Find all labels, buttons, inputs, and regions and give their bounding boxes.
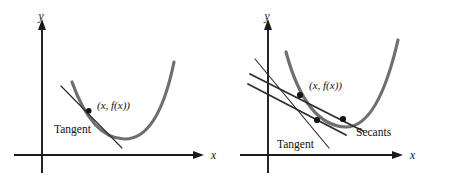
y-axis-left <box>38 19 46 173</box>
secant-line-far <box>250 74 363 131</box>
x-axis-label-left: x <box>210 149 217 161</box>
secant-point-near <box>314 117 320 123</box>
x-axis-right <box>240 151 403 159</box>
point-label-right: (x, f(x)) <box>309 79 342 92</box>
y-axis-label-right: y <box>263 10 270 23</box>
point-label-left: (x, f(x)) <box>97 99 130 112</box>
tangency-point-left <box>86 108 92 114</box>
tangent-label-right: Tangent <box>277 138 315 151</box>
x-axis-label-right: x <box>409 149 416 161</box>
y-axis-label-left: y <box>37 10 44 23</box>
secants-label-right: Secants <box>356 126 392 138</box>
secant-point-far <box>340 116 346 122</box>
tangency-point-right <box>297 92 303 98</box>
figure-root: y x (x, f(x)) Tangent <box>0 0 455 183</box>
tangent-panel: y x (x, f(x)) Tangent <box>0 0 227 183</box>
function-curve-right <box>286 40 398 127</box>
secants-panel: y x (x, f(x)) Tangent Secants <box>228 0 455 183</box>
tangent-label-left: Tangent <box>54 123 92 136</box>
tangent-line-left <box>61 86 122 148</box>
